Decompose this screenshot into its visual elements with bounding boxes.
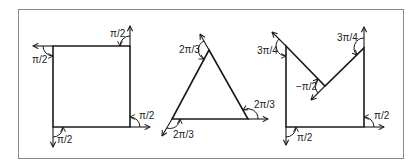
turning-angles-diagram: π/2 π/2 π/2 π/2 2π/3 2π/3 2π/3 3π/4 3π/4…	[0, 0, 420, 164]
angle-label: π/2	[32, 54, 48, 65]
angle-label: π/2	[110, 28, 126, 39]
angle-label: 3π/4	[337, 32, 358, 43]
angle-label: π/2	[57, 134, 73, 145]
angle-label: π/2	[297, 132, 313, 143]
angle-label: π/2	[139, 110, 155, 121]
angle-label: 3π/4	[257, 45, 278, 56]
angle-label: π/2	[374, 110, 390, 121]
angle-label: 2π/3	[254, 99, 275, 110]
angle-label: −π/2	[296, 81, 318, 92]
angle-label: 2π/3	[179, 44, 200, 55]
angle-label: 2π/3	[173, 129, 194, 140]
